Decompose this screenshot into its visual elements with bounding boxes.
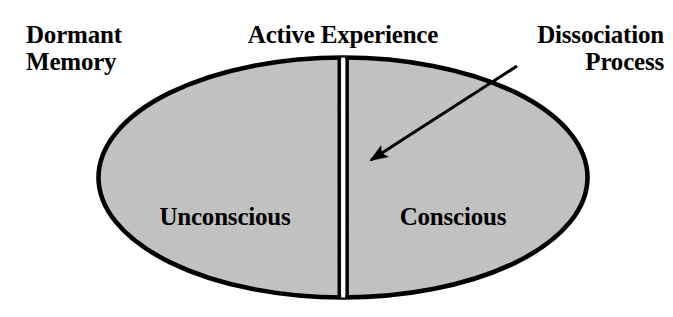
label-unconscious: Unconscious	[140, 203, 310, 231]
dissociation-divider	[339, 57, 347, 299]
diagram-canvas: Dormant Memory Active Experience Dissoci…	[0, 0, 673, 317]
label-conscious: Conscious	[378, 203, 528, 231]
label-dissociation-process: Dissociation Process	[537, 22, 664, 75]
label-active-experience: Active Experience	[203, 22, 483, 49]
label-dormant-memory: Dormant Memory	[26, 22, 122, 75]
